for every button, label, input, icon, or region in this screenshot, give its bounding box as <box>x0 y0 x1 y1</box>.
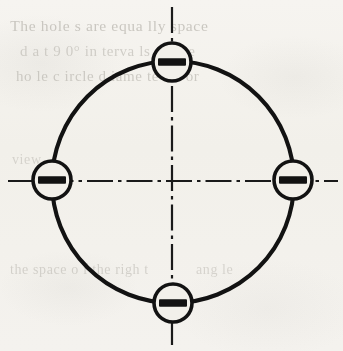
hole-bottom <box>154 284 192 322</box>
hole-slot-right <box>279 176 307 184</box>
hole-slot-left <box>38 176 66 184</box>
hole-top <box>153 43 191 81</box>
hole-slot-bottom <box>159 299 187 307</box>
hole-right <box>274 161 312 199</box>
hole-slot-top <box>158 58 186 66</box>
hole-left <box>33 161 71 199</box>
scanned-drawing-page: The hole s are equa lly space d a t 9 0°… <box>0 0 343 351</box>
bolt-circle-drawing <box>0 0 343 351</box>
